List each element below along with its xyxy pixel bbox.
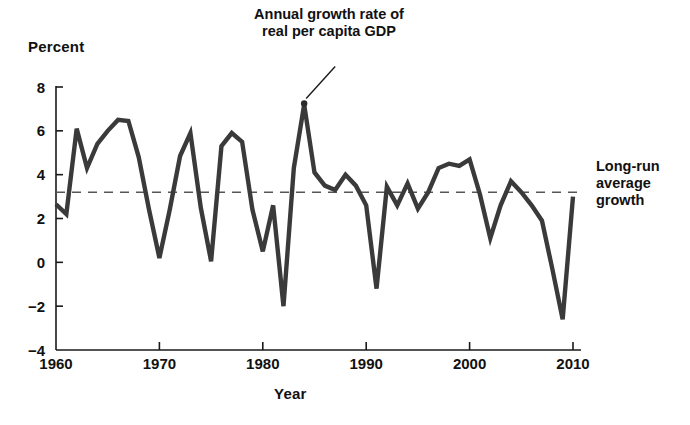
annotation-leader-line — [306, 67, 335, 99]
gdp-growth-chart-figure: Percent Year Annual growth rate of real … — [0, 0, 690, 425]
y-tick-label: 8 — [37, 79, 45, 96]
y-tick-label: 2 — [37, 210, 45, 227]
x-tick-label: 1970 — [143, 355, 176, 372]
y-tick-label: 4 — [37, 166, 46, 183]
x-tick-label: 2010 — [556, 355, 589, 372]
annotation-leader-dot — [301, 100, 307, 106]
gdp-growth-line — [56, 105, 573, 320]
x-tick-label: 1960 — [39, 355, 72, 372]
x-tick-label-group: 196019701980199020002010 — [39, 355, 589, 372]
x-tick-label: 1980 — [246, 355, 279, 372]
x-tick-label: 1990 — [350, 355, 383, 372]
y-tick-label: 6 — [37, 122, 45, 139]
chart-plot-area: 86420−2−4 196019701980199020002010 — [0, 0, 690, 425]
y-tick-label: 0 — [37, 254, 45, 271]
axis-lines — [56, 86, 581, 350]
y-tick-label-group: 86420−2−4 — [28, 79, 46, 359]
x-tick-label: 2000 — [453, 355, 486, 372]
y-tick-label: −2 — [28, 298, 45, 315]
